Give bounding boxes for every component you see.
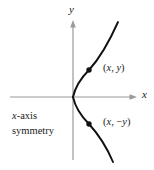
- x-axis-label: x: [142, 89, 147, 101]
- y-axis-label: y: [69, 4, 74, 16]
- point-marker-upper: [86, 67, 91, 72]
- point-lower-close-paren: ): [127, 116, 131, 127]
- point-label-lower: (x, −y): [103, 116, 131, 127]
- point-label-upper: (x, y): [103, 62, 125, 73]
- caption-line-one: x-axis: [12, 110, 37, 121]
- caption-line-two: symmetry: [12, 125, 54, 136]
- coordinate-plane-graphic: [0, 0, 154, 170]
- point-upper-close-paren: ): [121, 62, 125, 73]
- x-axis-symmetry-figure: y x (x, y) (x, −y) x-axis symmetry: [0, 0, 154, 170]
- caption-axis-word: -axis: [17, 110, 37, 121]
- curve-lower-branch: [73, 97, 113, 162]
- curve-upper-branch: [73, 22, 118, 97]
- x-axis-arrowhead: [130, 94, 138, 100]
- point-marker-lower: [86, 121, 91, 126]
- y-axis-arrowhead: [70, 20, 76, 28]
